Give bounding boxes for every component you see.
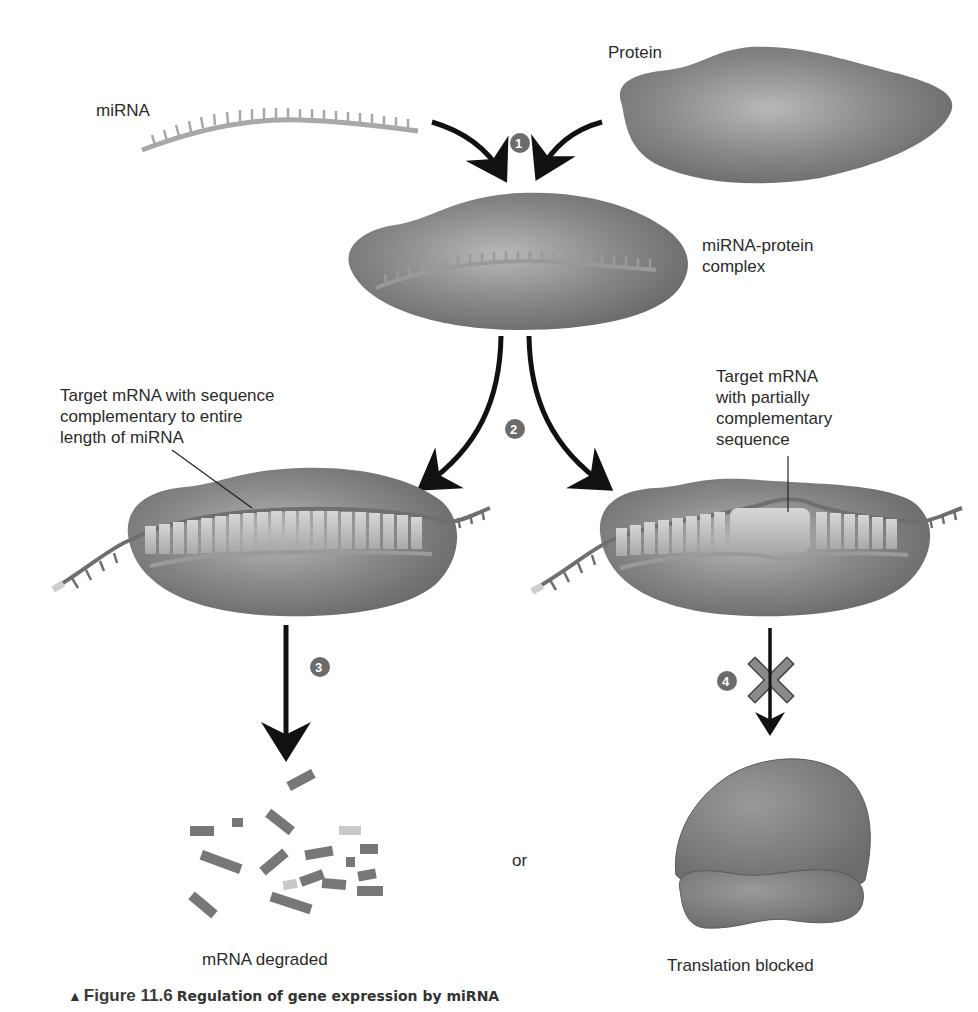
diagram-canvas xyxy=(0,0,978,1012)
figure-caption: ▲Figure 11.6Regulation of gene expressio… xyxy=(68,986,499,1006)
step-number-4: 4 xyxy=(722,671,729,692)
label-mirna: miRNA xyxy=(96,100,150,121)
label-target-full: Target mRNA with sequence complementary … xyxy=(60,385,275,448)
label-complex: miRNA-protein complex xyxy=(702,235,813,277)
label-protein: Protein xyxy=(608,42,662,63)
mirna-strand-free xyxy=(142,108,418,150)
figure-number: Figure 11.6 xyxy=(84,986,173,1005)
triangle-marker-icon: ▲ xyxy=(68,988,82,1004)
ribosome xyxy=(675,759,870,928)
complex-full-complementarity xyxy=(51,468,490,617)
complex-partial-complementarity xyxy=(530,479,962,617)
step2-arrows xyxy=(425,336,605,485)
label-target-partial: Target mRNA with partially complementary… xyxy=(716,366,832,450)
label-translation-blocked: Translation blocked xyxy=(667,955,814,976)
protein-shape xyxy=(620,47,952,184)
step-number-2: 2 xyxy=(510,419,517,440)
label-mrna-degraded: mRNA degraded xyxy=(202,949,328,970)
figure-title: Regulation of gene expression by miRNA xyxy=(177,988,500,1004)
mrna-fragments xyxy=(188,769,383,918)
label-or: or xyxy=(512,850,527,871)
step-number-1: 1 xyxy=(515,133,522,154)
step-number-3: 3 xyxy=(315,657,322,678)
mirna-protein-complex xyxy=(349,193,688,330)
